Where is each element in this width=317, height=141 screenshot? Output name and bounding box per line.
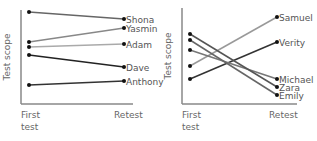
data-point bbox=[188, 64, 192, 68]
data-point bbox=[27, 53, 31, 57]
data-point bbox=[188, 38, 192, 42]
left-slope-chart: Test scopeFirsttestRetestShonaYasminAdam… bbox=[2, 10, 164, 132]
data-point bbox=[27, 45, 31, 49]
data-point bbox=[27, 10, 31, 14]
series-shona: Shona bbox=[27, 10, 154, 25]
series-label: Samuel bbox=[279, 13, 313, 23]
series-label: Dave bbox=[126, 63, 150, 73]
series-dave: Dave bbox=[27, 53, 150, 73]
data-point bbox=[188, 77, 192, 81]
series-label: Anthony bbox=[126, 77, 164, 87]
data-point bbox=[188, 48, 192, 52]
series-anthony: Anthony bbox=[27, 77, 164, 88]
series-adam: Adam bbox=[27, 40, 152, 50]
x-tick-first-test-line2: test bbox=[21, 122, 39, 132]
series-label: Verity bbox=[279, 38, 306, 48]
charts-canvas: Test scopeFirsttestRetestShonaYasminAdam… bbox=[0, 0, 317, 141]
x-tick-retest: Retest bbox=[269, 110, 298, 120]
y-axis-label: Test scope bbox=[163, 32, 173, 80]
data-point bbox=[27, 40, 31, 44]
x-tick-first-test: First bbox=[182, 110, 201, 120]
right-slope-chart: Test scopeFirsttestRetestSamuelVerityMic… bbox=[163, 8, 313, 132]
x-tick-retest: Retest bbox=[114, 110, 143, 120]
data-point bbox=[188, 32, 192, 36]
y-axis-label: Test scope bbox=[2, 33, 12, 81]
x-tick-first-test: First bbox=[21, 110, 40, 120]
x-tick-first-test-line2: test bbox=[182, 122, 200, 132]
series-label: Emily bbox=[279, 91, 304, 101]
series-label: Adam bbox=[126, 40, 152, 50]
series-label: Yasmin bbox=[125, 24, 157, 34]
data-point bbox=[27, 83, 31, 87]
